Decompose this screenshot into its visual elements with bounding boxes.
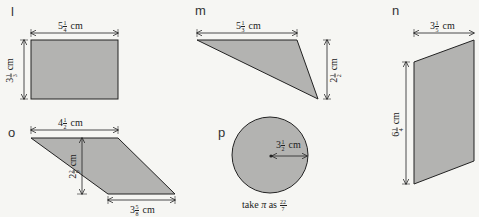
- dim-o-top: 412 cm: [58, 117, 83, 130]
- dim-m-base: 513 cm: [236, 20, 261, 33]
- shape-l-rectangle: [20, 29, 118, 99]
- label-l: l: [11, 4, 14, 19]
- dim-o-height: 229 cm: [68, 147, 81, 187]
- worksheet-figures: l m n o p 514 cm 313 cm 513 cm 212 cm 31…: [0, 0, 479, 217]
- dim-l-width: 514 cm: [58, 20, 83, 33]
- dim-m-height: 212 cm: [329, 51, 342, 91]
- pi-note: take π as 227: [242, 199, 288, 212]
- dim-l-height: 313 cm: [5, 51, 18, 91]
- dim-o-bottom: 358 cm: [130, 204, 155, 217]
- fraction: 14: [63, 20, 67, 33]
- label-n: n: [392, 3, 399, 18]
- dim-n-width: 315 cm: [430, 20, 455, 33]
- label-o: o: [8, 125, 15, 140]
- dim-p-radius: 312 cm: [276, 139, 301, 152]
- shape-o-parallelogram: [31, 126, 175, 204]
- shape-p-circle: [232, 117, 308, 193]
- label-p: p: [218, 125, 225, 140]
- dim-n-height: 614 cm: [391, 105, 404, 145]
- shape-n-parallelogram: [402, 29, 474, 184]
- shape-m-triangle: [197, 29, 331, 99]
- pi-symbol: π: [261, 199, 266, 210]
- label-m: m: [195, 3, 206, 18]
